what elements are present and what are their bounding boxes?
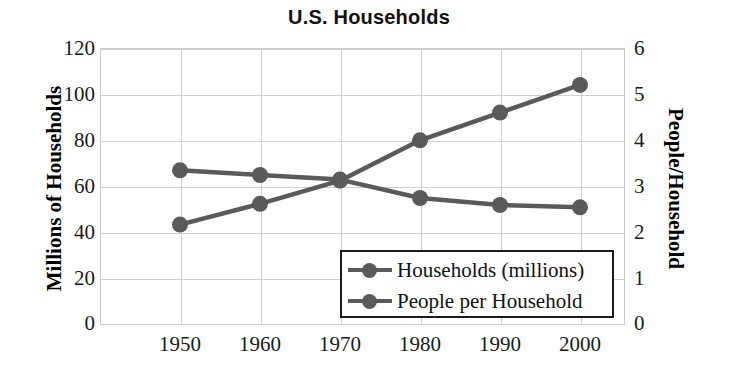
y-axis-right-ticks: 6 5 4 3 2 1 0 <box>634 0 664 374</box>
gridline-horizontal <box>101 95 624 96</box>
x-tick: 1990 <box>455 332 545 356</box>
y-tick-right: 5 <box>634 84 660 105</box>
gridline-vertical <box>261 49 262 324</box>
chart-container: U.S. Households 120 100 80 60 40 20 0 6 … <box>0 0 738 374</box>
chart-title: U.S. Households <box>0 6 738 29</box>
chart-legend: Households (millions) People per Househo… <box>340 250 614 318</box>
x-tick: 1960 <box>215 332 305 356</box>
x-tick: 2000 <box>535 332 625 356</box>
x-tick: 1980 <box>375 332 465 356</box>
gridline-horizontal <box>101 141 624 142</box>
gridline-horizontal <box>101 324 624 325</box>
legend-entry-households: Households (millions) <box>348 254 612 285</box>
y-tick-right: 6 <box>634 38 660 59</box>
y-tick-right: 0 <box>634 313 660 334</box>
x-tick: 1950 <box>135 332 225 356</box>
y-axis-right-title: People/Household <box>663 39 688 339</box>
legend-marker-icon <box>348 262 392 278</box>
y-tick-right: 1 <box>634 268 660 289</box>
gridline-horizontal <box>101 187 624 188</box>
x-tick: 1970 <box>295 332 385 356</box>
y-tick-right: 3 <box>634 176 660 197</box>
legend-marker-icon <box>348 293 392 309</box>
x-axis-ticks: 1950 1960 1970 1980 1990 2000 <box>0 332 738 368</box>
y-tick-right: 2 <box>634 222 660 243</box>
y-axis-left-title: Millions of Households <box>42 39 67 339</box>
y-tick-right: 4 <box>634 130 660 151</box>
legend-entry-people-per-household: People per Household <box>348 285 612 316</box>
legend-label: Households (millions) <box>397 259 584 281</box>
legend-label: People per Household <box>397 290 582 312</box>
gridline-vertical <box>181 49 182 324</box>
gridline-horizontal <box>101 49 624 50</box>
gridline-horizontal <box>101 233 624 234</box>
